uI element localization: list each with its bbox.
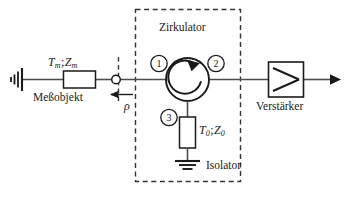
port-1-number: 1 xyxy=(155,59,163,69)
arrow-right-icon-output xyxy=(330,74,341,85)
resistor-icon-load xyxy=(180,117,196,148)
port-3-number: 3 xyxy=(165,113,173,123)
ground-icon-bottom xyxy=(175,161,200,169)
arrow-left-icon-reflection xyxy=(110,91,133,98)
dut-label: Meßobjekt xyxy=(33,92,83,104)
open-node-icon xyxy=(112,75,121,84)
circulator-measurement-figure: Tm;Zm Meßobjekt ρ Zirkulator T0;Z0 Isola… xyxy=(0,0,348,202)
circulator-label: Zirkulator xyxy=(159,22,206,34)
dut-parameters-label: Tm;Zm xyxy=(48,56,77,70)
resistor-icon-dut xyxy=(64,71,96,88)
load-parameters-label: T0;Z0 xyxy=(199,124,225,138)
reflection-coefficient-label: ρ xyxy=(124,100,130,112)
isolator-label: Isolator xyxy=(206,160,241,172)
port-2-number: 2 xyxy=(212,59,220,69)
ground-icon-left xyxy=(11,68,22,91)
amplifier-label: Verstärker xyxy=(256,101,303,113)
